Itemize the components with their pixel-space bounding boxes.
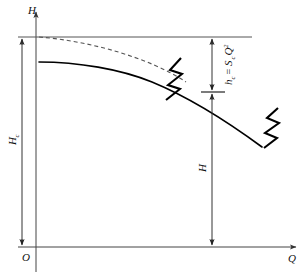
system-resistance-curve xyxy=(39,37,186,82)
net-head-label: H xyxy=(196,163,208,173)
friction-loss-h-sub: c xyxy=(229,76,237,80)
net-head-label-base: H xyxy=(196,163,208,173)
y-axis-label: H xyxy=(27,4,37,16)
friction-loss-label: h c = S c Q 2 xyxy=(222,44,237,85)
friction-loss-exponent: 2 xyxy=(222,44,230,48)
x-axis-label: Q xyxy=(288,252,296,264)
friction-loss-equals: = xyxy=(223,69,234,75)
zigzag-break-right-icon xyxy=(264,108,279,148)
origin-label: O xyxy=(22,251,30,263)
zigzag-break-left-icon xyxy=(166,58,182,100)
pump-characteristic-figure: H Q O H c H h c = S c Q 2 xyxy=(0,0,304,272)
static-head-label: H c xyxy=(6,134,21,147)
friction-loss-S: S xyxy=(222,60,234,66)
static-head-label-sub: c xyxy=(13,134,21,138)
diagram-canvas: H Q O H c H h c = S c Q 2 xyxy=(0,0,304,272)
